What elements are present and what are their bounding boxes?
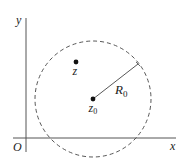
origin-label: O — [13, 140, 22, 154]
point-z-label: z — [72, 64, 78, 78]
point-z0-label-subscript: 0 — [93, 107, 97, 116]
point-z0-label: z0 — [88, 101, 98, 116]
x-axis-label: x — [169, 139, 176, 153]
y-axis-label: y — [15, 13, 22, 27]
radius-label-subscript: 0 — [123, 89, 128, 99]
diagram-canvas: y x O R0 z z0 — [0, 0, 187, 164]
radius-label-main: R — [114, 82, 123, 97]
radius-label: R0 — [114, 82, 128, 99]
